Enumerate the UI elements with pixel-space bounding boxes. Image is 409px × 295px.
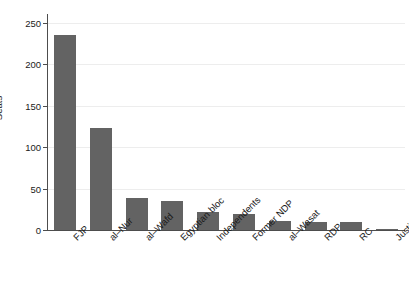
bar [376,229,398,230]
bar [90,128,112,230]
bar [54,35,76,230]
bars-group [0,0,409,295]
bar-chart-figure: 050100150200250 Seats FJPal–Nural–WafdEg… [0,0,409,295]
